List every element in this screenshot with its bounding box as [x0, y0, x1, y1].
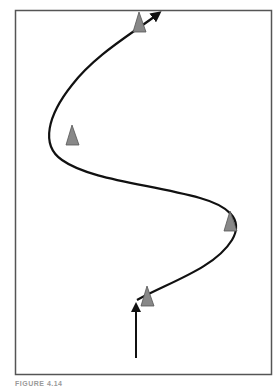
cone-3-icon — [66, 125, 79, 145]
figure-caption: FIGURE 4.14 — [15, 380, 63, 387]
slalom-diagram — [0, 0, 279, 388]
figure-border — [16, 11, 272, 375]
cone-4-icon — [133, 12, 146, 32]
weaving-path — [49, 14, 236, 300]
